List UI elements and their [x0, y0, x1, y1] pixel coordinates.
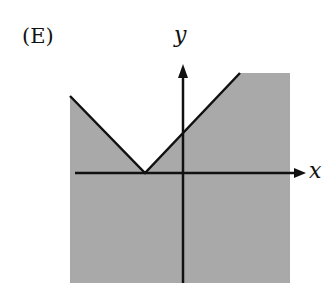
shaded-region — [70, 73, 290, 283]
x-axis-arrow-icon — [294, 168, 306, 178]
y-axis-arrow-icon — [178, 64, 188, 78]
graph — [0, 0, 335, 298]
